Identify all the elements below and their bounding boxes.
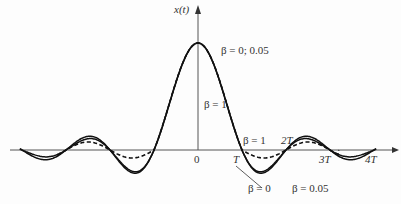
label-beta0: β = 0	[248, 183, 271, 194]
label-beta-peak: β = 0; 0.05	[221, 45, 269, 56]
chart: x(t) 0 T 2T 3T 4T β = 0; 0.05 β = 1 β = …	[0, 0, 401, 204]
tick-3T: 3T	[319, 154, 331, 165]
tick-T: T	[233, 154, 239, 165]
label-beta005: β = 0.05	[292, 183, 329, 194]
y-axis-arrow-icon	[195, 5, 201, 14]
label-beta1-main: β = 1	[204, 99, 227, 110]
label-beta1-side: β = 1	[243, 135, 266, 146]
tick-4T: 4T	[365, 154, 377, 165]
y-axis-label: x(t)	[174, 4, 189, 15]
tick-0: 0	[194, 154, 200, 165]
x-axis-arrow-icon	[392, 147, 399, 153]
plot-area	[0, 0, 401, 204]
tick-2T: 2T	[281, 135, 293, 146]
